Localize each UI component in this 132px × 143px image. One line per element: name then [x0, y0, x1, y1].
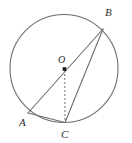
center-point-marker [63, 67, 67, 71]
vertex-label-A: A [19, 117, 26, 128]
segment-AB-through-center [28, 29, 103, 113]
center-label-O: O [58, 55, 65, 65]
circle-geometry-figure: O A B C [0, 0, 132, 143]
vertex-label-C: C [61, 129, 68, 140]
vertex-label-B: B [105, 7, 112, 18]
segment-BC [65, 29, 103, 123]
segment-AC [28, 113, 65, 123]
